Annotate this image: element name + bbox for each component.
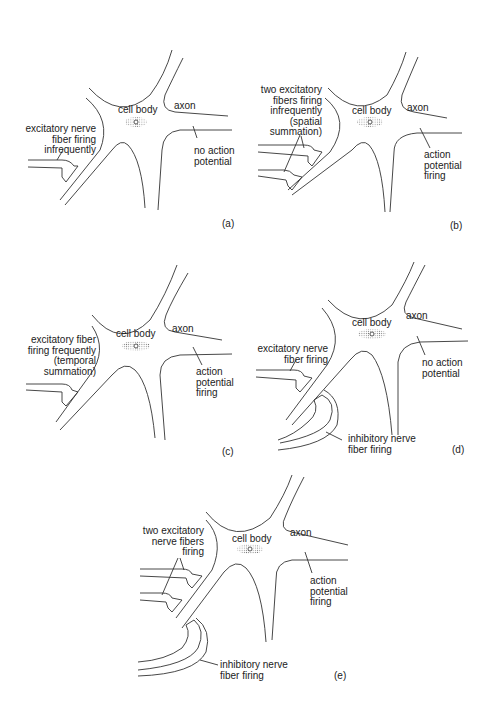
- output-label: action potential firing: [424, 150, 462, 182]
- excitatory-fiber-1: [140, 569, 202, 588]
- axon-label: axon: [172, 324, 194, 335]
- panel-tag: (a): [222, 218, 234, 229]
- cell-body-label: cell body: [232, 534, 271, 545]
- output-label: action potential firing: [310, 576, 348, 608]
- cell-body-label: cell body: [352, 318, 391, 329]
- inhibitory-label: inhibitory nerve fiber firing: [348, 434, 416, 455]
- panel-d: excitatory nerve fiber firing cell body …: [242, 240, 484, 480]
- cell-body-label: cell body: [118, 105, 157, 116]
- output-label: action potential firing: [196, 367, 234, 399]
- cell-body-label: cell body: [352, 106, 391, 117]
- output-label: no action potential: [422, 358, 463, 379]
- input-label: two excitatory nerve fibers firing: [143, 526, 204, 558]
- axon-label: axon: [407, 103, 429, 114]
- panel-e: two excitatory nerve fibers firing cell …: [120, 470, 362, 708]
- axon-line-bottom: [158, 130, 232, 210]
- axon-line-top: [175, 112, 228, 116]
- excitatory-fiber: [28, 160, 78, 182]
- dendrite-top: [89, 50, 172, 107]
- axon-label: axon: [174, 101, 196, 112]
- cell-body-label: cell body: [116, 329, 155, 340]
- panel-a: excitatory nerve fiber firing infrequent…: [0, 0, 242, 240]
- panel-c: excitatory fiber firing frequently (temp…: [0, 240, 242, 480]
- panel-b: two excitatory fibers firing infrequentl…: [242, 0, 484, 240]
- excitatory-fiber-2: [140, 593, 182, 612]
- input-label: two excitatory fibers firing infrequentl…: [261, 85, 322, 138]
- inhibitory-label: inhibitory nerve fiber firing: [220, 660, 288, 681]
- excitatory-fiber-1: [258, 145, 322, 166]
- input-label: excitatory fiber firing frequently (temp…: [28, 335, 96, 377]
- axon-label: axon: [406, 311, 428, 322]
- input-label: excitatory nerve fiber firing: [257, 344, 328, 365]
- input-label: excitatory nerve fiber firing infrequent…: [25, 124, 96, 156]
- panel-tag: (b): [450, 220, 462, 231]
- panel-tag: (d): [452, 444, 464, 455]
- axon-label: axon: [290, 528, 312, 539]
- neuron-diagram-a: [0, 0, 242, 240]
- panel-tag: (e): [334, 670, 346, 681]
- excitatory-fiber-2: [258, 170, 302, 190]
- panel-tag: (c): [222, 446, 234, 457]
- inhibitory-fiber: [138, 620, 201, 670]
- inhibitory-fiber: [278, 395, 332, 443]
- output-label: no action potential: [194, 146, 235, 167]
- excitatory-fiber: [256, 370, 312, 392]
